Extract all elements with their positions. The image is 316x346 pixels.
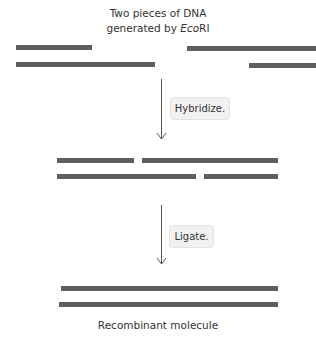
down-arrow-1 [161,79,162,139]
down-arrow-2 [161,205,162,264]
hybridized-bottom-strand-right [204,174,278,179]
hybridized-top-strand-left [57,158,134,163]
recombinant-top-strand [61,286,278,291]
fragment-left-top-strand [16,45,92,50]
title-italic-eco: Eco [180,22,199,34]
recombinant-bottom-strand [59,302,278,307]
title-prefix: generated by [106,22,180,34]
fragment-right-top-strand [187,46,316,51]
step-hybridize-label: Hybridize. [170,97,230,120]
hybridized-top-strand-right [142,158,278,163]
step-ligate-label: Ligate. [169,225,214,248]
hybridized-bottom-strand-left [57,174,196,179]
recombinant-caption: Recombinant molecule [0,318,316,333]
diagram-title-line1: Two pieces of DNA [0,6,316,21]
title-suffix: RI [199,22,209,34]
diagram-title-line2: generated by EcoRI [0,21,316,36]
fragment-left-bottom-strand [16,62,155,67]
fragment-right-bottom-strand [249,63,316,68]
